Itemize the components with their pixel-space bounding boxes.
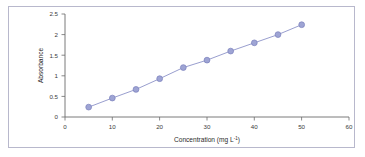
x-tick-label-2: 20	[156, 123, 163, 130]
x-tick-label-5: 50	[298, 123, 305, 130]
y-tick-label-3: 1.5	[49, 52, 58, 59]
absorbance-vs-concentration-chart: 0 0.5 1 1.5 2 2.5 0 10 20 30 40 50	[9, 7, 356, 149]
y-axis-ticks	[62, 14, 66, 117]
data-point	[204, 57, 210, 63]
data-point	[251, 40, 257, 46]
y-tick-label-2: 1	[55, 72, 59, 79]
y-tick-label-1: 0.5	[49, 93, 58, 100]
y-tick-label-0: 0	[55, 113, 59, 120]
series-line	[89, 25, 302, 107]
x-axis-title: Concentration (mg L-1)	[174, 136, 240, 144]
x-tick-label-3: 30	[204, 123, 211, 130]
data-point	[109, 95, 115, 101]
data-point	[157, 76, 163, 82]
data-point	[133, 87, 139, 93]
y-tick-label-5: 2.5	[49, 10, 58, 17]
x-tick-label-1: 10	[109, 123, 116, 130]
chart-plot-area: 0 0.5 1 1.5 2 2.5 0 10 20 30 40 50	[9, 7, 356, 149]
x-axis-title-tail: )	[238, 136, 240, 144]
y-axis-title: Absorbance	[37, 48, 44, 84]
series-markers	[86, 22, 305, 110]
chart-figure-frame: 0 0.5 1 1.5 2 2.5 0 10 20 30 40 50	[8, 6, 355, 148]
x-tick-label-6: 60	[346, 123, 353, 130]
x-axis-title-main: Concentration (mg L	[174, 136, 234, 144]
data-point	[86, 104, 92, 110]
y-tick-label-4: 2	[55, 31, 59, 38]
data-point	[299, 22, 305, 28]
x-tick-label-0: 0	[63, 123, 67, 130]
x-axis-ticks	[65, 117, 349, 121]
data-point	[180, 65, 186, 71]
data-point	[275, 32, 281, 38]
data-point	[228, 48, 234, 54]
data-series-calibration-curve	[86, 22, 305, 110]
x-tick-label-4: 40	[251, 123, 258, 130]
